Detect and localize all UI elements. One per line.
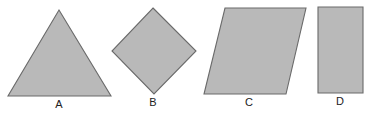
- diagram-canvas: A B C D: [0, 0, 368, 113]
- shape-label-a: A: [55, 98, 63, 110]
- rectangle-shape-d: [318, 7, 363, 93]
- diamond-shape-b: [112, 8, 196, 94]
- shape-c-group: C: [204, 8, 306, 108]
- shapes-diagram: A B C D: [0, 0, 368, 113]
- shape-d-group: D: [318, 7, 363, 107]
- shape-b-group: B: [112, 8, 196, 108]
- shape-label-c: C: [245, 96, 253, 108]
- triangle-shape-a: [8, 10, 111, 96]
- parallelogram-shape-c: [204, 8, 306, 94]
- shape-a-group: A: [8, 10, 111, 110]
- shape-label-d: D: [336, 95, 344, 107]
- shape-label-b: B: [149, 96, 156, 108]
